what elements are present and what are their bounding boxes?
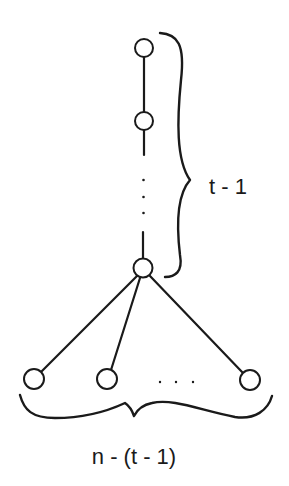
node-leaf-last — [240, 370, 260, 390]
bottom-brace — [20, 395, 272, 418]
node-path-1 — [135, 39, 153, 57]
graph-diagram: t - 1 n - (t - 1) — [0, 0, 289, 486]
edge-hub-leaf-last — [150, 276, 243, 373]
node-hub — [134, 259, 153, 278]
node-path-2 — [135, 112, 153, 130]
right-brace — [160, 33, 190, 277]
path-count-label: t - 1 — [209, 174, 247, 199]
node-leaf-2 — [97, 369, 117, 389]
edge-hub-leaf-2 — [111, 278, 140, 370]
vertical-ellipsis — [142, 179, 145, 215]
edge-hub-leaf-1 — [41, 276, 137, 372]
leaf-count-label: n - (t - 1) — [92, 444, 176, 469]
horizontal-ellipsis — [159, 381, 194, 383]
node-leaf-1 — [24, 369, 44, 389]
